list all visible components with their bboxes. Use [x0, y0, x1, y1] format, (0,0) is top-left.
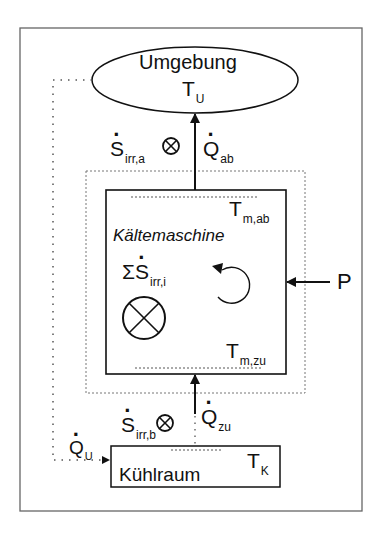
sum-symbol: Σ	[122, 260, 135, 283]
temp-symbol: T	[226, 339, 239, 362]
heat-symbol: Q	[203, 137, 219, 160]
machine-t-out: Tm,ab	[229, 198, 270, 219]
circle-cross-icon	[157, 415, 173, 431]
machine-t-in: Tm,zu	[226, 340, 266, 361]
circle-cross-icon	[163, 138, 179, 154]
heat-out-label: Qab	[203, 138, 234, 159]
entropy-sub: irr,i	[150, 275, 166, 289]
temp-sub: K	[261, 464, 269, 478]
entropy-a-label: Sirr,a	[110, 138, 145, 159]
power-label: P	[337, 271, 352, 293]
heat-leak-label: QU	[69, 438, 93, 457]
circle-cross-icon	[123, 297, 165, 339]
temp-sub: m,ab	[243, 212, 270, 226]
heat-sub: zu	[218, 420, 231, 434]
cold-room-temp: TK	[247, 450, 269, 471]
surroundings-label: Umgebung	[139, 52, 237, 72]
entropy-symbol: S	[135, 260, 149, 283]
entropy-b-label: Sirr,b	[121, 414, 156, 435]
heat-sub: U	[85, 450, 93, 462]
temp-sub: m,zu	[240, 354, 266, 368]
temp-symbol: T	[247, 449, 260, 472]
cold-room-label: Kühlraum	[119, 465, 200, 484]
entropy-sub: irr,a	[125, 152, 145, 166]
temp-symbol: T	[182, 77, 195, 100]
entropy-symbol: S	[121, 413, 135, 436]
heat-leak-path	[53, 80, 109, 460]
circular-arrow-icon	[212, 263, 250, 303]
machine-entropy-sum: ΣSirr,i	[122, 261, 166, 282]
temp-sub: U	[196, 92, 205, 106]
temp-symbol: T	[229, 197, 242, 220]
heat-in-label: Qzu	[201, 406, 231, 427]
heat-symbol: Q	[69, 437, 84, 458]
entropy-symbol: S	[110, 137, 124, 160]
machine-label: Kältemaschine	[113, 227, 225, 244]
heat-symbol: Q	[201, 405, 217, 428]
system-boundary	[86, 171, 305, 393]
heat-sub: ab	[220, 152, 233, 166]
entropy-sub: irr,b	[136, 428, 156, 442]
surroundings-temp: TU	[182, 78, 205, 99]
